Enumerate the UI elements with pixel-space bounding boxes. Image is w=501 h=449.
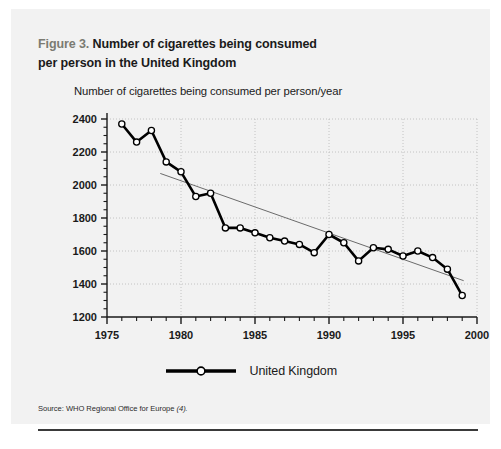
data-point-marker <box>341 240 347 246</box>
line-chart-svg: 1200140016001800200022002400197519801985… <box>22 107 492 372</box>
figure-number: Figure 3. <box>38 37 89 51</box>
figure-title: Figure 3. Number of cigarettes being con… <box>38 35 458 73</box>
chart-axis-title: Number of cigarettes being consumed per … <box>74 85 342 97</box>
figure-title-line-1: Figure 3. Number of cigarettes being con… <box>38 35 458 54</box>
data-point-marker <box>252 230 258 236</box>
trend-line <box>160 173 463 280</box>
x-tick-label: 1990 <box>317 329 341 341</box>
series-line-united-kingdom <box>122 124 462 296</box>
legend-series-label: United Kingdom <box>249 364 337 378</box>
data-point-marker <box>267 235 273 241</box>
data-point-marker <box>415 248 421 254</box>
chart-legend: United Kingdom <box>11 361 490 379</box>
data-point-marker <box>385 246 391 252</box>
data-point-marker <box>163 159 169 165</box>
x-tick-label: 2000 <box>465 329 489 341</box>
bottom-divider <box>38 429 478 431</box>
data-point-marker <box>208 190 214 196</box>
y-tick-label: 1400 <box>73 278 97 290</box>
data-point-marker <box>148 127 154 133</box>
source-note: Source: WHO Regional Office for Europe (… <box>38 404 188 413</box>
source-reference: (4). <box>176 404 187 413</box>
data-point-marker <box>400 253 406 259</box>
source-prefix: Source: <box>38 404 64 413</box>
figure-title-line-2: per person in the United Kingdom <box>38 54 458 73</box>
data-point-marker <box>134 139 140 145</box>
y-tick-label: 1800 <box>73 212 97 224</box>
y-tick-label: 2400 <box>73 113 97 125</box>
data-point-marker <box>193 193 199 199</box>
chart-area: Number of cigarettes being consumed per … <box>22 77 492 377</box>
x-tick-label: 1995 <box>391 329 415 341</box>
y-tick-label: 2200 <box>73 146 97 158</box>
data-point-marker <box>282 238 288 244</box>
data-point-marker <box>237 225 243 231</box>
data-point-marker <box>444 266 450 272</box>
data-point-marker <box>178 169 184 175</box>
legend-line-marker <box>164 364 238 378</box>
data-point-marker <box>119 121 125 127</box>
data-point-marker <box>326 231 332 237</box>
x-tick-label: 1975 <box>95 329 119 341</box>
data-point-marker <box>430 255 436 261</box>
figure-title-text-1: Number of cigarettes being consumed <box>93 37 317 51</box>
x-tick-label: 1980 <box>169 329 193 341</box>
x-tick-label: 1985 <box>243 329 267 341</box>
data-point-marker <box>356 258 362 264</box>
plot-area: 1200140016001800200022002400197519801985… <box>22 107 492 372</box>
data-point-marker <box>459 292 465 298</box>
y-tick-label: 1600 <box>73 245 97 257</box>
figure-panel: Figure 3. Number of cigarettes being con… <box>11 9 490 424</box>
data-point-marker <box>370 245 376 251</box>
y-tick-label: 1200 <box>73 311 97 323</box>
data-point-marker <box>222 225 228 231</box>
source-text: WHO Regional Office for Europe <box>66 404 175 413</box>
data-point-marker <box>296 241 302 247</box>
y-tick-label: 2000 <box>73 179 97 191</box>
data-point-marker <box>311 250 317 256</box>
